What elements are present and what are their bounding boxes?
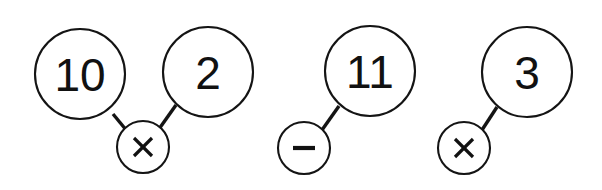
- node-11-label: 11: [346, 46, 394, 98]
- connector-minus-to-node11: [322, 106, 339, 130]
- node-3-label: 3: [514, 47, 540, 99]
- node-2[interactable]: 2: [163, 27, 253, 117]
- connector-times-to-node3: [482, 107, 497, 130]
- node-10-label: 10: [54, 49, 105, 101]
- number-bond-diagram: 10 2: [0, 0, 602, 190]
- operator-times-1[interactable]: [117, 121, 169, 173]
- group-2: 11 3: [278, 26, 572, 174]
- node-3[interactable]: 3: [482, 27, 572, 117]
- connector-node2-to-times: [159, 105, 176, 129]
- group-1: 10 2: [35, 27, 253, 173]
- operator-times-2[interactable]: [438, 122, 490, 174]
- node-10[interactable]: 10: [35, 29, 125, 119]
- diagram-canvas: 10 2: [0, 0, 602, 190]
- node-11[interactable]: 11: [325, 26, 415, 116]
- node-2-label: 2: [195, 47, 221, 99]
- operator-minus-1[interactable]: [278, 122, 330, 174]
